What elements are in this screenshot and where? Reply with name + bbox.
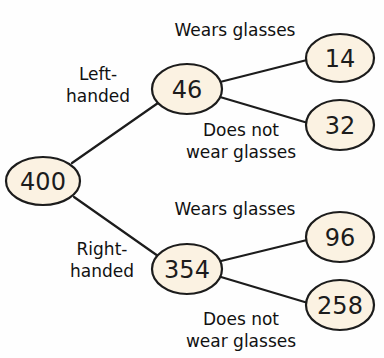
- edge-left-glasses: [220, 60, 307, 82]
- label-left-wears-glasses: Wears glasses: [160, 19, 310, 41]
- tree-diagram-canvas: 400 46 354 14 32 96 258: [0, 0, 384, 358]
- edge-right-no-glasses: [221, 277, 308, 303]
- edge-root-left: [72, 103, 158, 163]
- node-right-glasses: 96: [306, 212, 374, 262]
- label-right-handed: Right- handed: [62, 238, 142, 282]
- label-right-wears-glasses: Wears glasses: [160, 198, 310, 220]
- node-right-no-glasses: 258: [306, 280, 374, 330]
- edge-right-glasses: [221, 240, 307, 261]
- node-right-glasses-value: 96: [325, 224, 356, 252]
- node-root-value: 400: [20, 168, 66, 196]
- node-right-no-glasses-value: 258: [317, 292, 363, 320]
- label-left-handed: Left- handed: [58, 63, 138, 107]
- node-root: 400: [6, 157, 80, 205]
- node-right-handed-value: 354: [164, 256, 210, 284]
- node-right-handed: 354: [152, 244, 222, 294]
- node-left-handed: 46: [152, 64, 222, 114]
- node-left-glasses-value: 14: [325, 45, 356, 73]
- node-left-no-glasses: 32: [306, 100, 374, 150]
- tree-diagram: 400 46 354 14 32 96 258 Left- handed: [0, 0, 384, 358]
- node-left-handed-value: 46: [172, 76, 203, 104]
- node-left-no-glasses-value: 32: [325, 112, 356, 140]
- node-left-glasses: 14: [306, 34, 374, 82]
- label-right-does-not-wear: Does not wear glasses: [176, 308, 306, 352]
- label-left-does-not-wear: Does not wear glasses: [176, 119, 306, 163]
